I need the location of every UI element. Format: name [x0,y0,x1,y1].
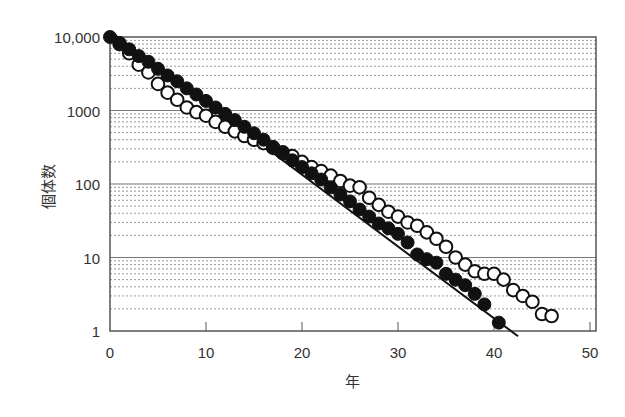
open-circle-point [526,295,539,308]
y-tick-label: 10 [83,250,100,267]
y-tick-label: 10,000 [54,29,100,46]
series-filled-circles [104,31,506,330]
filled-circle-point [468,287,481,300]
x-tick-label: 10 [198,344,215,361]
survivorship-chart: 01020304050 110100100010,000 年 個体数 [0,0,625,417]
filled-circle-point [492,316,505,329]
x-tick-label: 20 [294,344,311,361]
open-circle-point [353,181,366,194]
y-tick-label: 1 [92,323,100,340]
filled-circle-point [478,298,491,311]
filled-circle-point [401,236,414,249]
y-axis-ticks: 110100100010,000 [54,29,100,340]
x-axis-title: 年 [345,373,360,391]
x-tick-label: 0 [106,344,114,361]
y-tick-label: 100 [75,176,100,193]
x-axis-ticks: 01020304050 [106,322,599,361]
y-tick-label: 1000 [67,103,100,120]
x-tick-label: 50 [582,344,599,361]
y-axis-title: 個体数 [40,164,58,209]
open-circle-point [497,273,510,286]
x-tick-label: 40 [486,344,503,361]
open-circle-point [545,310,558,323]
x-tick-label: 30 [390,344,407,361]
open-circle-point [440,240,453,253]
filled-circle-point [430,256,443,269]
